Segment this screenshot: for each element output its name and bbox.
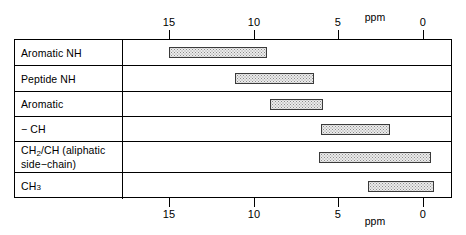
table-row: Aromatic: [15, 92, 451, 117]
bottom-tick-label-15: 15: [163, 209, 176, 220]
bottom-tick-label-0: 0: [420, 209, 426, 220]
top-tick-label-15: 15: [163, 17, 176, 28]
range-bar-ch: [321, 124, 390, 135]
row-track-peptide-nh: [123, 66, 451, 91]
row-track-ch: [123, 117, 451, 141]
row-track-aromatic: [123, 92, 451, 116]
table-row: CH2/CH (aliphatic side−chain): [15, 142, 451, 173]
range-bar-ch3: [368, 181, 435, 192]
row-track-ch2-ch-aliphatic: [123, 142, 451, 172]
bottom-tick-label-10: 10: [248, 209, 261, 220]
row-label-ch3-pre: CH: [21, 180, 36, 192]
shift-range-table: Aromatic NH Peptide NH Aromatic − CH: [14, 39, 452, 198]
top-tick-label-5: 5: [335, 17, 341, 28]
top-tick-label-0: 0: [420, 17, 426, 28]
row-label-aromatic-nh: Aromatic NH: [15, 40, 123, 65]
range-bar-ch2-ch-aliphatic: [319, 152, 431, 163]
ppm-chemical-shift-chart: 15 10 5 0 ppm 15 10 5 0 ppm Aromatic NH …: [0, 0, 466, 235]
top-tick-mark-5: [338, 30, 339, 39]
top-tick-mark-10: [254, 30, 255, 39]
row-label-ch3-subscript: 3: [36, 182, 41, 194]
table-row: Aromatic NH: [15, 40, 451, 66]
row-track-aromatic-nh: [123, 40, 451, 65]
row-label-ch2-ch-line1-pre: CH: [21, 144, 36, 156]
bottom-axis-unit-label: ppm: [365, 216, 385, 227]
table-row: − CH: [15, 117, 451, 142]
row-track-ch3: [123, 173, 451, 199]
row-label-ch2-ch-line2: side−chain): [21, 158, 76, 170]
table-row: CH3: [15, 173, 451, 199]
row-label-ch: − CH: [15, 117, 123, 141]
range-bar-aromatic-nh: [169, 47, 267, 58]
bottom-tick-mark-10: [254, 198, 255, 207]
row-label-aromatic: Aromatic: [15, 92, 123, 116]
bottom-tick-mark-5: [338, 198, 339, 207]
range-bar-peptide-nh: [235, 73, 315, 84]
top-tick-label-10: 10: [248, 17, 261, 28]
bottom-tick-mark-0: [423, 198, 424, 207]
top-tick-mark-15: [169, 30, 170, 39]
table-row: Peptide NH: [15, 66, 451, 92]
top-axis-unit-label: ppm: [365, 12, 385, 23]
row-label-peptide-nh: Peptide NH: [15, 66, 123, 91]
row-label-ch2-ch-line1-post: /CH (aliphatic: [41, 144, 105, 156]
bottom-tick-mark-15: [169, 198, 170, 207]
row-label-ch3: CH3: [15, 173, 123, 199]
row-label-ch2-ch-subscript: 2: [36, 149, 41, 158]
bottom-tick-label-5: 5: [335, 209, 341, 220]
row-label-ch2-ch-aliphatic: CH2/CH (aliphatic side−chain): [15, 142, 123, 172]
top-tick-mark-0: [423, 30, 424, 39]
range-bar-aromatic: [270, 99, 322, 110]
